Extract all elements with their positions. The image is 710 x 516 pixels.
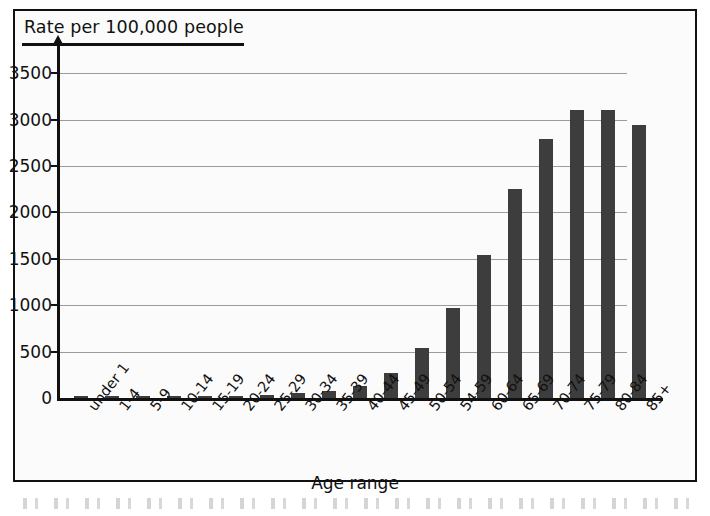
y-axis-tick-label: 3000 bbox=[4, 110, 52, 130]
figure-container: Rate per 100,000 people 0500100015002000… bbox=[0, 0, 710, 516]
x-axis-title: Age range bbox=[0, 473, 710, 493]
y-axis-tick-mark bbox=[51, 258, 59, 260]
y-axis-tick-label: 2500 bbox=[4, 156, 52, 176]
y-axis-tick-mark bbox=[51, 211, 59, 213]
y-axis-tick-label: 2000 bbox=[4, 202, 52, 222]
bar bbox=[570, 110, 584, 398]
y-axis-tick-mark bbox=[51, 165, 59, 167]
y-axis-tick-label: 0 bbox=[4, 388, 52, 408]
y-axis-tick-mark bbox=[51, 304, 59, 306]
bar bbox=[508, 189, 522, 398]
y-axis-ticks: 0500100015002000250030003500 bbox=[0, 0, 52, 516]
plot-area bbox=[57, 50, 663, 398]
y-axis-title: Rate per 100,000 people bbox=[24, 17, 244, 37]
y-axis-tick-label: 1000 bbox=[4, 295, 52, 315]
bar bbox=[632, 125, 646, 398]
y-axis-arrowhead-icon bbox=[52, 35, 64, 46]
y-axis-tick-mark bbox=[51, 72, 59, 74]
bar bbox=[539, 139, 553, 398]
y-axis-tick-label: 1500 bbox=[4, 249, 52, 269]
y-axis-tick-mark bbox=[51, 351, 59, 353]
gridline bbox=[57, 73, 627, 74]
y-axis-tick-mark bbox=[51, 119, 59, 121]
y-axis-tick-label: 500 bbox=[4, 342, 52, 362]
bar bbox=[601, 110, 615, 398]
scan-artifact bbox=[18, 498, 694, 509]
y-axis-tick-label: 3500 bbox=[4, 63, 52, 83]
y-axis-line bbox=[57, 44, 60, 398]
gridline bbox=[57, 120, 627, 121]
